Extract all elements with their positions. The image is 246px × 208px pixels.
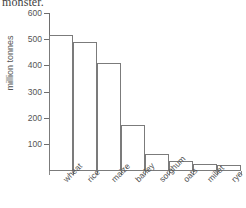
bar-chart-plot: million tonnes 100200300400500600 wheatr… — [0, 0, 246, 208]
y-axis-tick-label: 300 — [28, 87, 42, 97]
y-axis-tick-label-wrap: 400 — [0, 65, 42, 66]
bar — [97, 63, 121, 171]
x-axis-tick — [49, 171, 50, 175]
figure-container: monster. million tonnes 1002003004005006… — [0, 0, 246, 208]
y-axis-tick-label-wrap: 600 — [0, 13, 42, 14]
bar — [49, 35, 73, 171]
y-axis-tick-label: 200 — [28, 113, 42, 123]
y-axis-tick-label: 600 — [28, 8, 42, 18]
y-axis-tick-label: 100 — [28, 139, 42, 149]
bar — [73, 42, 97, 171]
y-axis-tick-label-wrap: 100 — [0, 144, 42, 145]
y-axis-tick-label: 400 — [28, 60, 42, 70]
y-axis-tick-label-wrap: 200 — [0, 118, 42, 119]
y-axis-tick-label: 500 — [28, 34, 42, 44]
y-axis-tick-label-wrap: 300 — [0, 92, 42, 93]
y-axis-tick — [44, 13, 49, 14]
y-axis-title: million tonnes — [5, 18, 15, 108]
y-axis-tick-label-wrap: 500 — [0, 39, 42, 40]
